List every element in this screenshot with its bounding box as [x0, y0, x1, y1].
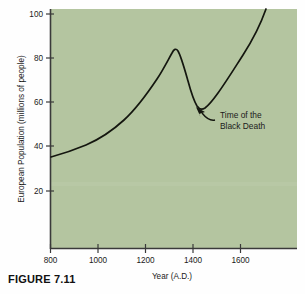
figure-caption: FIGURE 7.11 [8, 273, 76, 285]
y-tick-label-20: 20 [34, 187, 44, 196]
annotation-line-1: Time of the [220, 110, 262, 120]
population-chart: 100 80 60 40 20 800 1000 1200 1400 1600 … [0, 0, 305, 294]
x-axis-title: Year (A.D.) [152, 272, 192, 281]
y-tick-label-60: 60 [34, 98, 44, 107]
x-tick-label-1000: 1000 [89, 256, 108, 265]
x-tick-label-1600: 1600 [231, 256, 250, 265]
background-band [51, 182, 297, 186]
y-axis-title: European Population (millions of people) [17, 55, 26, 203]
x-tick-label-1400: 1400 [184, 256, 203, 265]
y-tick-label-80: 80 [34, 54, 44, 63]
x-tick-label-1200: 1200 [136, 256, 155, 265]
y-tick-label-40: 40 [34, 142, 44, 151]
figure-container: 100 80 60 40 20 800 1000 1200 1400 1600 … [0, 0, 305, 294]
x-tick-label-800: 800 [44, 256, 58, 265]
annotation-line-2: Black Death [220, 121, 265, 131]
y-tick-label-100: 100 [29, 10, 43, 19]
